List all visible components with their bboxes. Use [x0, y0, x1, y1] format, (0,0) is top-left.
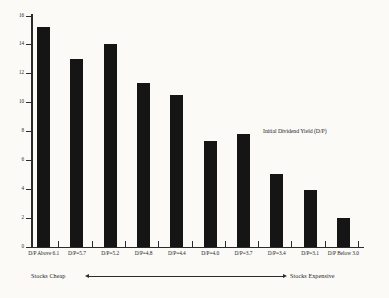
bar: [170, 95, 183, 247]
x-axis-tick: [58, 241, 59, 247]
bar: [137, 83, 150, 246]
y-axis-tick-label: 10: [2, 100, 24, 105]
y-axis-tick: [26, 247, 32, 248]
bar: [337, 218, 350, 247]
y-axis-tick-label: 6: [2, 157, 24, 162]
x-axis-tick: [125, 241, 126, 247]
y-axis-tick-label: 16: [2, 13, 24, 18]
y-axis-tick-label: 8: [2, 128, 24, 133]
x-axis-label: D/P Above 6.1: [27, 250, 60, 256]
x-axis-label: D/P=4.8: [127, 250, 160, 256]
bar-chart-plot: 1614121086420 D/P Above 6.1D/P=5.7D/P=5.…: [0, 0, 389, 298]
x-axis-label: D/P=4.0: [194, 250, 227, 256]
bar: [70, 59, 83, 247]
y-axis-tick-label: 12: [2, 71, 24, 76]
y-axis-tick: [26, 44, 32, 45]
scale-label-expensive: Stocks Expensive: [290, 272, 335, 280]
y-axis-tick: [26, 131, 32, 132]
x-axis-tick: [92, 241, 93, 247]
x-axis-tick: [258, 241, 259, 247]
scale-line: [89, 276, 283, 277]
x-axis-tick: [192, 241, 193, 247]
y-axis-tick-label: 2: [2, 215, 24, 220]
y-axis-tick: [26, 218, 32, 219]
scale-label-cheap: Stocks Cheap: [31, 272, 65, 280]
bar: [37, 27, 50, 246]
x-axis-tick: [291, 241, 292, 247]
x-axis-label: D/P=3.1: [293, 250, 326, 256]
x-axis-label: D/P=3.4: [260, 250, 293, 256]
x-axis-tick: [158, 241, 159, 247]
x-axis-label: D/P Below 3.0: [327, 250, 360, 256]
y-axis-tick: [26, 160, 32, 161]
y-axis-tick: [26, 102, 32, 103]
bar: [237, 134, 250, 247]
x-axis-tick: [325, 241, 326, 247]
x-axis-tick: [358, 241, 359, 247]
x-axis-label: D/P=5.2: [94, 250, 127, 256]
bar: [304, 190, 317, 246]
bar: [204, 141, 217, 246]
x-axis-label: D/P=3.7: [227, 250, 260, 256]
x-axis-label: D/P=4.4: [160, 250, 193, 256]
bar: [270, 174, 283, 246]
chart-page: 1614121086420 D/P Above 6.1D/P=5.7D/P=5.…: [0, 0, 389, 298]
y-axis-tick-label: 0: [2, 244, 24, 249]
x-axis-tick: [225, 241, 226, 247]
x-axis-line: [31, 247, 364, 249]
bar: [104, 44, 117, 246]
y-axis-tick-label: 14: [2, 42, 24, 47]
y-axis-tick: [26, 189, 32, 190]
x-axis-label: D/P=5.7: [60, 250, 93, 256]
chart-annotation: Initial Dividend Yield (D/P): [263, 128, 327, 135]
y-axis-tick-label: 4: [2, 186, 24, 191]
valuation-scale: Stocks Cheap Stocks Expensive: [0, 270, 389, 286]
arrow-right-icon: [283, 274, 287, 278]
y-axis-tick: [26, 16, 32, 17]
y-axis-tick: [26, 73, 32, 74]
